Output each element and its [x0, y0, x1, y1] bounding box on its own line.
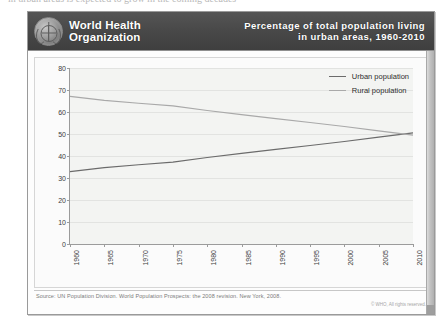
- x-tick-mark: [173, 244, 174, 247]
- x-tick-mark: [70, 244, 71, 247]
- chart-title-line2: in urban areas, 1960-2010: [244, 31, 425, 43]
- who-logo-block: World Health Organization: [28, 17, 141, 46]
- x-tick-label: 1975: [176, 250, 183, 266]
- x-tick-mark: [242, 244, 243, 247]
- x-tick-label: 1960: [73, 250, 80, 266]
- x-tick-label: 1990: [279, 250, 286, 266]
- x-tick-label: 2000: [347, 250, 354, 266]
- x-tick-mark: [344, 244, 345, 247]
- x-tick-mark: [104, 244, 105, 247]
- y-tick-label: 70: [58, 87, 66, 94]
- x-tick-label: 1995: [313, 250, 320, 266]
- y-tick-label: 20: [58, 197, 66, 204]
- figure-body: Percentage of global population (%) 0102…: [28, 50, 434, 314]
- x-tick-mark: [139, 244, 140, 247]
- footer-divider: [34, 290, 428, 291]
- figure-header: World Health Organization Percentage of …: [28, 12, 434, 50]
- ghost-text-line: in urban areas is expected to grow in th…: [8, 0, 236, 4]
- x-tick-label: 1970: [142, 250, 149, 266]
- who-emblem-icon: [34, 17, 63, 46]
- series-line: [70, 96, 413, 135]
- y-tick-label: 0: [62, 241, 66, 248]
- x-tick-label: 2005: [382, 250, 389, 266]
- who-chart-figure: World Health Organization Percentage of …: [27, 11, 435, 315]
- organization-name-line1: World Health: [69, 19, 141, 32]
- copyright-note: © WHO, All rights reserved.: [371, 302, 426, 307]
- y-tick-label: 60: [58, 109, 66, 116]
- x-tick-label: 1965: [107, 250, 114, 266]
- y-tick-label: 30: [58, 175, 66, 182]
- legend-item[interactable]: Urban population: [329, 72, 409, 81]
- legend-label: Rural population: [352, 86, 407, 95]
- x-tick-mark: [310, 244, 311, 247]
- y-tick-label: 80: [58, 65, 66, 72]
- scan-top-ghost-text: in urban areas is expected to grow in th…: [0, 0, 445, 9]
- y-tick-label: 10: [58, 219, 66, 226]
- legend-label: Urban population: [352, 72, 409, 81]
- scrollbar-track[interactable]: [426, 51, 434, 314]
- x-tick-label: 2010: [416, 250, 423, 266]
- x-tick-label: 1985: [245, 250, 252, 266]
- legend: Urban populationRural population: [329, 72, 409, 100]
- x-tick-mark: [413, 244, 414, 247]
- wreath-right-icon: [51, 27, 61, 44]
- chart-title-line1: Percentage of total population living: [244, 20, 425, 32]
- x-tick-label: 1980: [210, 250, 217, 266]
- scrollbar-thumb[interactable]: [427, 305, 434, 314]
- legend-swatch: [329, 76, 346, 77]
- x-tick-mark: [207, 244, 208, 247]
- x-tick-mark: [379, 244, 380, 247]
- x-tick-mark: [276, 244, 277, 247]
- organization-name-line2: Organization: [69, 31, 141, 44]
- organization-name: World Health Organization: [69, 19, 141, 44]
- series-line: [70, 133, 413, 172]
- wreath-left-icon: [36, 27, 46, 44]
- figure-footer: Source: UN Population Division. World Po…: [34, 290, 428, 311]
- legend-swatch: [329, 90, 346, 91]
- y-tick-label: 40: [58, 153, 66, 160]
- y-tick-label: 50: [58, 131, 66, 138]
- chart-title: Percentage of total population living in…: [244, 20, 434, 43]
- source-note: Source: UN Population Division. World Po…: [36, 293, 281, 299]
- plot-card: Percentage of global population (%) 0102…: [34, 57, 428, 288]
- legend-item[interactable]: Rural population: [329, 86, 409, 95]
